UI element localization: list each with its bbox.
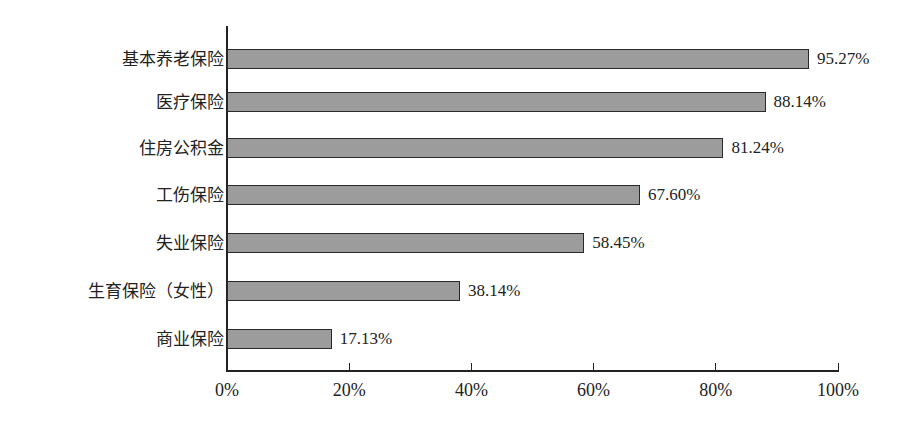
x-tick-label: 0% [215,380,239,401]
x-tick [715,363,716,370]
category-label: 失业保险 [156,233,224,253]
x-tick [227,363,228,370]
x-tick [838,363,839,370]
value-label: 67.60% [648,185,700,205]
category-label: 生育保险（女性） [88,281,224,301]
bar [227,138,723,158]
category-label: 基本养老保险 [122,49,224,69]
x-tick [593,363,594,370]
category-label: 医疗保险 [156,92,224,112]
value-label: 38.14% [468,281,520,301]
bar [227,329,332,349]
bar [227,281,460,301]
category-label: 工伤保险 [156,185,224,205]
bar [227,233,584,253]
x-tick-label: 40% [455,380,488,401]
x-tick-label: 80% [699,380,732,401]
x-tick-label: 20% [333,380,366,401]
x-axis-line [226,370,839,372]
category-label: 商业保险 [156,329,224,349]
bar [227,185,640,205]
value-label: 95.27% [817,49,869,69]
horizontal-bar-chart: 基本养老保险95.27%医疗保险88.14%住房公积金81.24%工伤保险67.… [0,0,898,433]
x-tick [349,363,350,370]
value-label: 17.13% [340,329,392,349]
bar [227,92,766,112]
x-tick [471,363,472,370]
category-label: 住房公积金 [139,138,224,158]
x-tick-label: 100% [817,380,859,401]
value-label: 81.24% [731,138,783,158]
value-label: 88.14% [774,92,826,112]
value-label: 58.45% [592,233,644,253]
x-tick-label: 60% [577,380,610,401]
bar [227,49,809,69]
